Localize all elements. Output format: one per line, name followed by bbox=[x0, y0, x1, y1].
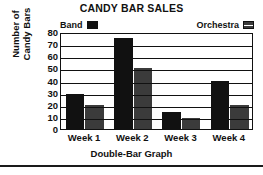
bar-orchestra-week-1 bbox=[85, 105, 104, 129]
y-axis-tick-labels: 80706050403020100 bbox=[32, 33, 58, 130]
y-axis-title: Number of Candy Bars bbox=[8, 0, 34, 68]
bar-band-week-1 bbox=[66, 94, 85, 129]
gridline-30 bbox=[61, 95, 252, 96]
y-tick-label-40: 40 bbox=[47, 77, 58, 87]
bar-group-2 bbox=[109, 34, 157, 129]
x-tick-label-week-2: Week 2 bbox=[108, 132, 156, 143]
x-axis-title: Double-Bar Graph bbox=[0, 148, 263, 159]
solid-black-swatch-icon bbox=[87, 21, 98, 29]
legend-label-band: Band bbox=[60, 20, 83, 30]
legend-label-orchestra: Orchestra bbox=[196, 20, 239, 30]
y-tick-label-50: 50 bbox=[47, 65, 58, 75]
gridline-20 bbox=[61, 107, 252, 108]
bar-group-1 bbox=[61, 34, 109, 129]
legend-entry-band: Band bbox=[60, 20, 98, 30]
y-tick-label-10: 10 bbox=[47, 113, 58, 123]
chart-title: CANDY BAR SALES bbox=[0, 2, 263, 14]
x-tick-label-week-4: Week 4 bbox=[205, 132, 253, 143]
y-tick-label-30: 30 bbox=[47, 89, 58, 99]
bar-band-week-4 bbox=[211, 81, 230, 130]
y-tick-label-20: 20 bbox=[47, 101, 58, 111]
gridline-40 bbox=[61, 83, 252, 84]
bar-groups bbox=[61, 34, 252, 129]
double-bar-graph-figure: CANDY BAR SALES Band Orchestra Number of… bbox=[0, 0, 263, 175]
y-axis-title-line-2: Candy Bars bbox=[21, 8, 32, 61]
x-tick-label-week-3: Week 3 bbox=[157, 132, 205, 143]
x-axis-tick-labels: Week 1Week 2Week 3Week 4 bbox=[60, 132, 253, 146]
y-tick-label-80: 80 bbox=[47, 28, 58, 38]
legend-entry-orchestra: Orchestra bbox=[196, 20, 254, 30]
y-tick-label-0: 0 bbox=[53, 125, 58, 135]
bar-band-week-2 bbox=[114, 38, 133, 129]
bar-orchestra-week-4 bbox=[230, 105, 249, 129]
y-tick-label-60: 60 bbox=[47, 53, 58, 63]
gridline-50 bbox=[61, 70, 252, 71]
gridline-70 bbox=[61, 46, 252, 47]
bottom-divider bbox=[0, 165, 263, 167]
bar-group-4 bbox=[206, 34, 254, 129]
gridline-60 bbox=[61, 58, 252, 59]
gridline-10 bbox=[61, 119, 252, 120]
bar-band-week-3 bbox=[162, 112, 181, 129]
y-axis-title-line-1: Number of bbox=[10, 10, 21, 58]
x-tick-label-week-1: Week 1 bbox=[60, 132, 108, 143]
hatched-gray-swatch-icon bbox=[243, 21, 254, 29]
bar-orchestra-week-2 bbox=[134, 68, 153, 129]
y-tick-label-70: 70 bbox=[47, 40, 58, 50]
chart-legend: Band Orchestra bbox=[58, 20, 254, 33]
bar-group-3 bbox=[158, 34, 206, 129]
plot-area bbox=[60, 33, 253, 130]
